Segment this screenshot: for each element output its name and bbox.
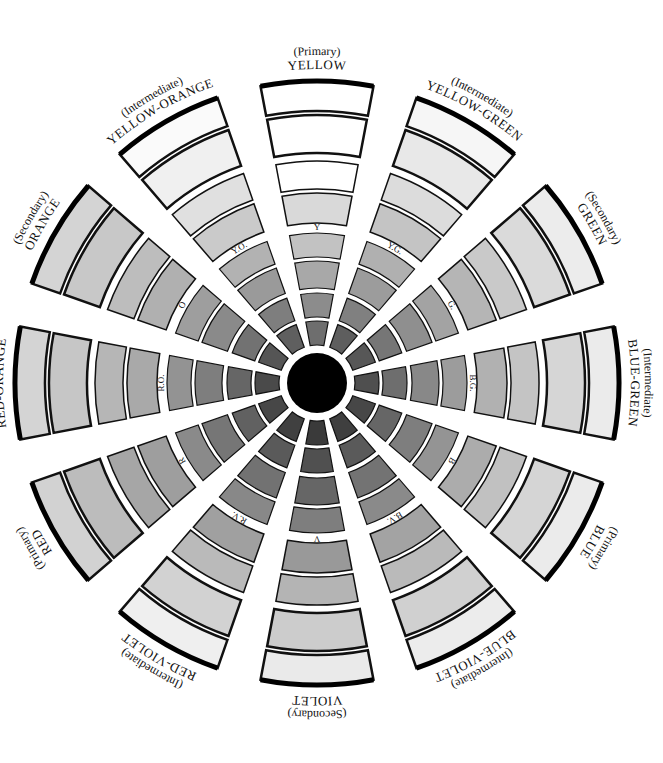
swatch-blue-green-ring-1 (354, 372, 379, 394)
abbr-label-blue-green: B.G. (468, 374, 478, 391)
swatch-violet-ring-1 (306, 420, 328, 445)
swatch-blue-green-ring-7 (543, 333, 585, 433)
color-type-label-blue-green: (Intermediate) (640, 348, 656, 419)
center-black-disc (287, 353, 347, 413)
color-wheel-diagram: YY.G.G.B.G.BB.V.VR.V.RR.O.OY.O. YELLOW(P… (0, 0, 663, 763)
swatch-yellow-ring-8 (261, 81, 374, 116)
swatch-red-orange-ring-8 (15, 327, 50, 440)
swatch-blue-ring-1 (346, 396, 375, 423)
swatch-red-orange-ring-5 (127, 348, 160, 418)
swatch-violet-ring-3 (295, 476, 339, 505)
swatch-blue-green-ring-8 (584, 327, 619, 440)
swatch-red-orange-ring-4 (167, 356, 193, 411)
color-type-label-yellow: (Primary) (293, 44, 341, 59)
color-name-label-blue-green: BLUE-GREEN (625, 338, 643, 428)
swatch-blue-green-ring-5 (474, 348, 507, 418)
swatch-violet-ring-6 (276, 574, 358, 605)
swatch-yellow-ring-6 (276, 161, 358, 192)
swatch-yellow-green-ring-1 (330, 325, 357, 354)
swatch-blue-green-ring-6 (508, 342, 539, 424)
color-name-label-violet: VIOLET (291, 693, 343, 709)
swatch-yellow-ring-1 (306, 321, 328, 346)
swatch-blue-green-ring-3 (410, 361, 439, 405)
swatch-red-orange-ring-1 (255, 372, 280, 394)
swatch-yellow-ring-3 (295, 261, 339, 290)
swatch-yellow-orange-ring-1 (277, 325, 304, 354)
swatch-red-orange-ring-7 (49, 333, 91, 433)
abbr-label-yellow: Y (314, 222, 321, 232)
swatch-red-ring-1 (259, 396, 288, 423)
swatch-violet-ring-7 (267, 609, 367, 651)
swatch-yellow-ring-4 (290, 233, 345, 259)
swatch-red-orange-ring-2 (227, 367, 252, 400)
swatch-green-ring-1 (346, 343, 375, 370)
swatch-red-orange-ring-6 (95, 342, 126, 424)
color-name-label-red-orange: RED-ORANGE (0, 337, 9, 429)
swatch-violet-ring-8 (261, 650, 374, 685)
abbr-label-violet: V (313, 534, 320, 544)
swatch-orange-ring-1 (259, 343, 288, 370)
swatch-yellow-ring-5 (282, 193, 352, 226)
swatch-blue-violet-ring-1 (330, 412, 357, 441)
swatch-blue-green-ring-4 (441, 356, 467, 411)
color-type-label-violet: (Secondary) (287, 707, 347, 722)
color-name-label-yellow: YELLOW (287, 57, 347, 73)
swatch-violet-ring-2 (301, 448, 334, 473)
swatch-blue-green-ring-2 (382, 367, 407, 400)
swatch-yellow-ring-7 (267, 115, 367, 157)
swatch-violet-ring-5 (282, 540, 352, 573)
swatch-red-violet-ring-1 (277, 412, 304, 441)
abbr-label-red-orange: R.O. (156, 374, 166, 391)
swatch-red-orange-ring-3 (195, 361, 224, 405)
swatch-violet-ring-4 (290, 507, 345, 533)
swatch-yellow-ring-2 (301, 293, 334, 318)
